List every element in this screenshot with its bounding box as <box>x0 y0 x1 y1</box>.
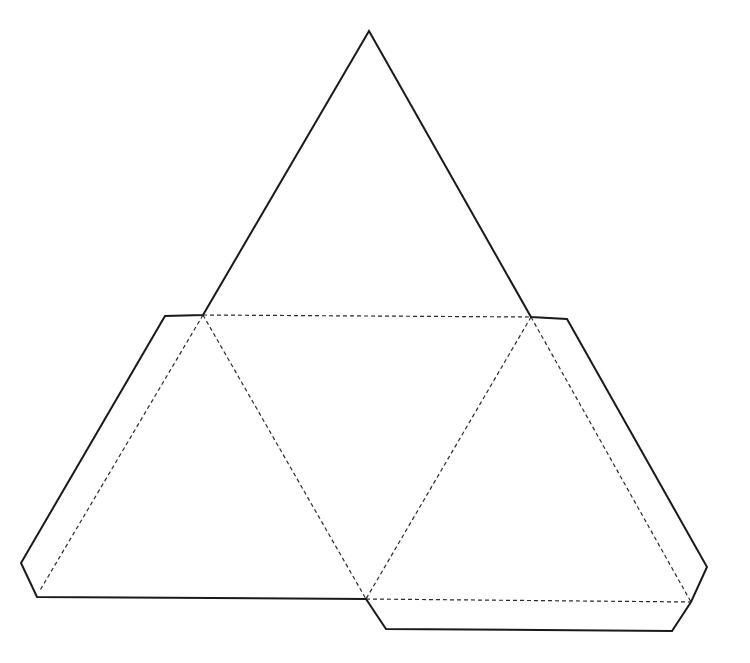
fold-line-1 <box>203 315 366 599</box>
net-outline <box>21 31 707 631</box>
fold-line-5 <box>366 599 691 602</box>
cut-outline <box>21 31 707 631</box>
tetrahedron-net-diagram <box>0 0 750 663</box>
fold-line-2 <box>366 317 531 599</box>
fold-line-0 <box>203 315 531 317</box>
tetrahedron-net-canvas <box>0 0 750 663</box>
fold-line-4 <box>531 317 691 602</box>
fold-lines <box>39 315 691 602</box>
fold-line-3 <box>39 315 203 592</box>
